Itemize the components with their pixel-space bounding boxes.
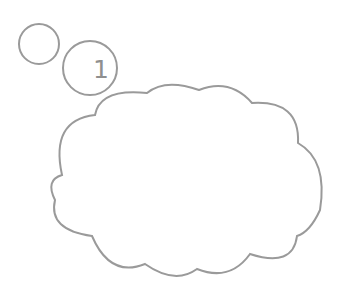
small-thought-circle <box>19 24 59 64</box>
cloud-shape <box>51 85 321 276</box>
bubble-number: 1 <box>84 52 118 86</box>
thought-bubble-graphic <box>0 0 344 296</box>
